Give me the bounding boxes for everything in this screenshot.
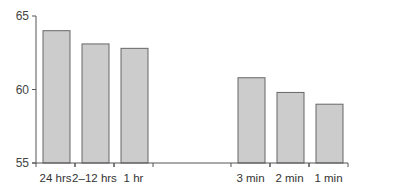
y-tick-label: 65 [16, 9, 30, 23]
x-category-label: 1 hr [124, 172, 144, 184]
y-tick-label: 60 [16, 83, 30, 97]
bar-24-hrs [43, 31, 70, 163]
bar-1-hr [121, 48, 148, 163]
y-axis: 556065 [16, 9, 36, 170]
bar-2-min [277, 92, 304, 163]
x-axis: 24 hrs2–12 hrs1 hr3 min2 min1 min [32, 163, 348, 184]
x-category-label: 1 min [314, 172, 342, 184]
bar-3-min [238, 78, 265, 163]
bar-2-12-hrs [82, 44, 109, 163]
x-category-label: 2–12 hrs [72, 172, 117, 184]
x-category-label: 24 hrs [40, 172, 72, 184]
bar-1-min [316, 104, 343, 163]
x-category-label: 2 min [275, 172, 303, 184]
x-category-label: 3 min [236, 172, 264, 184]
y-tick-label: 55 [16, 156, 30, 170]
bar-chart: 556065 24 hrs2–12 hrs1 hr3 min2 min1 min [0, 0, 402, 193]
bars [43, 31, 343, 163]
